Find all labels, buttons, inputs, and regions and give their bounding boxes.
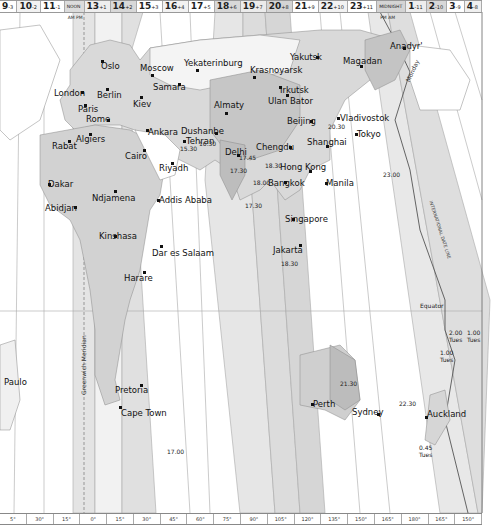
city-marker-icon [284,181,287,184]
hour-label: 22 [321,1,334,11]
city-label: Moscow [140,64,174,73]
longitude-cell: 75° [214,514,241,524]
city-label: Riyadh [159,164,188,173]
time-note: 21.30 [340,381,357,387]
city-marker-icon [377,413,380,416]
city-label: Paris [78,105,98,114]
city-marker-icon [89,133,92,136]
time-note: 22.30 [399,401,416,407]
longitude-cell: 165° [429,514,456,524]
city-marker-icon [309,170,312,173]
hour-cell: 17+5 [189,1,215,12]
time-note: 15.30 [180,146,197,152]
offset-label: +2 [125,4,132,10]
time-note: Tues [449,337,462,343]
offset-label: -9 [456,4,461,10]
longitude-cell: 30° [27,514,54,524]
timezone-hour-bar: 9-310-211-1NOONAM PM13+114+215+316+417+5… [0,0,482,13]
city-label: Hong Kong [280,163,326,172]
city-marker-icon [299,244,302,247]
equator-label: Equator [420,303,444,309]
city-marker-icon [143,271,146,274]
hour-cell: 2-10 [427,1,448,12]
city-label: Vladivostok [340,114,389,123]
offset-label: -11 [415,4,423,10]
time-note: 17.45 [239,155,256,161]
time-note: Tues [419,452,432,458]
offset-label: +8 [281,4,288,10]
city-marker-icon [403,47,406,50]
city-label: Algiers [76,135,105,144]
longitude-cell: 60° [187,514,214,524]
hour-label: NOON [67,4,81,9]
longitude-cell: 105° [268,514,295,524]
city-marker-icon [286,94,289,97]
city-marker-icon [68,140,71,143]
offset-label: +5 [203,4,210,10]
city-marker-icon [316,56,319,59]
city-marker-icon [183,140,186,143]
city-label: Harare [124,274,153,283]
city-marker-icon [119,406,122,409]
longitude-cell: 15° [107,514,134,524]
hour-cell: 10-2 [17,1,41,12]
city-marker-icon [225,112,228,115]
city-marker-icon [326,145,329,148]
city-label: Rabat [52,142,77,151]
city-label: Kiev [133,100,151,109]
time-note: 18.00 [253,180,270,186]
city-marker-icon [140,384,143,387]
time-note: 18.30 [265,163,282,169]
time-note: 17.00 [167,449,184,455]
hour-cell: 16+4 [163,1,189,12]
city-marker-icon [215,132,218,135]
city-label: Cape Town [121,409,167,418]
city-marker-icon [143,149,146,152]
hour-cell: 22+10 [319,1,348,12]
offset-label: -8 [473,4,478,10]
city-marker-icon [101,60,104,63]
hour-label: 19 [243,1,256,11]
city-label: Auckland [427,410,466,419]
city-marker-icon [151,74,154,77]
time-note: 16.30 [199,141,216,147]
time-note: 23.00 [383,172,400,178]
city-label: Dakar [48,180,73,189]
offset-label: +3 [151,4,158,10]
city-marker-icon [74,206,77,209]
time-note: 17.30 [230,168,247,174]
city-marker-icon [114,235,117,238]
offset-label: -2 [32,4,37,10]
hour-label: MIDNIGHT [379,4,402,9]
city-marker-icon [146,129,149,132]
offset-label: -10 [435,4,443,10]
city-marker-icon [279,86,282,89]
city-label: Berlin [97,91,122,100]
hour-cell: 23+11 [348,1,377,12]
hour-cell: 11-1 [41,1,65,12]
city-marker-icon [337,117,340,120]
hour-label: 16 [165,1,178,11]
hour-cell: 3-9 [447,1,464,12]
city-marker-icon [355,133,358,136]
city-label: Anadyr' [390,42,423,51]
hour-cell: 18+6 [215,1,241,12]
city-label: Dar es Salaam [152,249,214,258]
longitude-cell: 90° [241,514,268,524]
hour-cell: MIDNIGHTPM AM [377,1,406,12]
city-marker-icon [325,182,328,185]
city-marker-icon [84,104,87,107]
city-label: Ulan Bator [268,97,313,106]
hour-cell: 21+9 [293,1,319,12]
longitude-cell: 135° [321,514,348,524]
city-marker-icon [196,69,199,72]
time-note: 17.30 [245,203,262,209]
city-label: Addis Ababa [159,196,212,205]
offset-label: +10 [333,4,344,10]
longitude-cell: 5° [0,514,27,524]
city-marker-icon [425,416,428,419]
time-note: 20.30 [328,124,345,130]
hour-label: 21 [295,1,308,11]
city-label: Abidjan [45,204,77,213]
offset-label: +4 [177,4,184,10]
